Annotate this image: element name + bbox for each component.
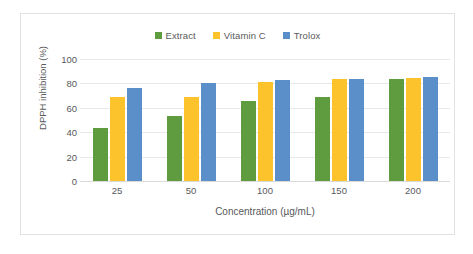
bar-extract <box>167 116 182 181</box>
bar-extract <box>389 79 404 181</box>
axis-baseline <box>80 181 450 182</box>
x-tick-label: 25 <box>85 185 149 196</box>
bar-group <box>233 59 297 181</box>
x-axis-title: Concentration (µg/mL) <box>80 206 450 217</box>
bar-trolox <box>275 80 290 181</box>
bar-trolox <box>201 83 216 181</box>
x-tick-label: 200 <box>381 185 445 196</box>
bar-trolox <box>127 88 142 181</box>
bar-vitamin-c <box>110 97 125 181</box>
y-axis-title-text: DPPH inhibition (%) <box>37 46 48 130</box>
x-tick-label: 50 <box>159 185 223 196</box>
bar-extract <box>315 97 330 181</box>
y-tick-label: 100 <box>61 54 77 65</box>
bar-vitamin-c <box>332 79 347 181</box>
bar-group <box>85 59 149 181</box>
bar-vitamin-c <box>184 97 199 181</box>
bar-extract <box>241 101 256 181</box>
bar-group <box>381 59 445 181</box>
x-tick-label: 100 <box>233 185 297 196</box>
plot-area <box>80 59 450 181</box>
bar-groups <box>80 59 450 181</box>
y-tick-label: 20 <box>66 151 77 162</box>
bar-group <box>307 59 371 181</box>
y-axis-ticks: 020406080100 <box>49 48 77 181</box>
bar-extract <box>93 128 108 181</box>
y-tick-label: 0 <box>72 176 77 187</box>
chart-frame: Extract Vitamin C Trolox DPPH inhibition… <box>20 13 455 235</box>
x-tick-label: 150 <box>307 185 371 196</box>
bar-vitamin-c <box>406 78 421 181</box>
y-tick-label: 80 <box>66 78 77 89</box>
bar-trolox <box>423 77 438 181</box>
bar-vitamin-c <box>258 82 273 181</box>
y-axis-title: DPPH inhibition (%) <box>37 0 48 64</box>
x-axis-ticks: 2550100150200 <box>80 185 450 196</box>
y-tick-label: 40 <box>66 127 77 138</box>
y-tick-label: 60 <box>66 102 77 113</box>
bar-trolox <box>349 79 364 181</box>
plot-wrapper: DPPH inhibition (%) 020406080100 2550100… <box>21 14 454 234</box>
bar-group <box>159 59 223 181</box>
